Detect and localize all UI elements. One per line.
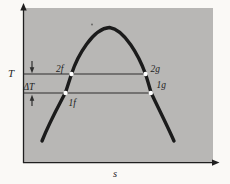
y-axis-arrowhead-icon: [20, 3, 26, 11]
point-label-1g: 1g: [157, 80, 167, 90]
print-speck: [91, 24, 93, 26]
point-marker-2f: [69, 72, 73, 76]
delta-t-label: ΔT: [23, 82, 36, 92]
x-axis-label: s: [113, 168, 117, 179]
point-marker-1g: [149, 91, 153, 95]
y-axis-label: T: [8, 67, 15, 79]
point-marker-1f: [63, 91, 67, 95]
ts-diagram-figure: T ΔT s 2f 2g 1f 1g: [0, 0, 230, 184]
point-label-2g: 2g: [151, 64, 161, 74]
x-axis-arrowhead-icon: [212, 159, 220, 165]
point-marker-2g: [143, 72, 147, 76]
ts-diagram-canvas: T ΔT s 2f 2g 1f 1g: [0, 0, 230, 184]
